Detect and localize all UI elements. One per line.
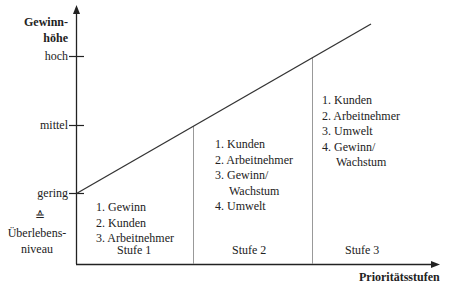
priority-item: 1. Kunden (215, 137, 293, 153)
y-axis-title: Gewinn- höhe (2, 15, 68, 45)
priority-item: 1. Gewinn (96, 200, 174, 216)
tick-label-gering: gering (0, 186, 68, 200)
priority-item: 3. Umwelt (322, 124, 400, 140)
stage-3-label: Stufe 3 (345, 243, 379, 257)
stage-2-label: Stufe 2 (232, 243, 266, 257)
y-axis-title-line1: Gewinn- (2, 15, 68, 29)
priority-item: 2. Arbeitnehmer (322, 109, 400, 125)
baseline-label-line1: Überlebens- (0, 226, 74, 240)
priority-item: 1. Kunden (322, 93, 400, 109)
baseline-label: Überlebens- niveau (0, 226, 74, 256)
x-axis-title: Prioritätsstufen (359, 270, 440, 284)
priority-item: Wachstum (215, 184, 293, 200)
priority-item: 2. Kunden (96, 216, 174, 232)
stage-1-label: Stufe 1 (117, 243, 151, 257)
stage-3-priorities: 1. Kunden 2. Arbeitnehmer 3. Umwelt 4. G… (322, 93, 400, 171)
stage-1-priorities: 1. Gewinn 2. Kunden 3. Arbeitnehmer (96, 200, 174, 247)
priority-item: 2. Arbeitnehmer (215, 153, 293, 169)
tick-label-mittel: mittel (0, 118, 68, 132)
y-axis-title-line2: höhe (2, 31, 68, 45)
equivalence-symbol: ≙ (26, 209, 54, 223)
priority-item: 3. Gewinn/ (215, 168, 293, 184)
stage-2-priorities: 1. Kunden 2. Arbeitnehmer 3. Gewinn/ Wac… (215, 137, 293, 215)
y-axis-arrow-icon (73, 5, 80, 14)
priority-item: 4. Umwelt (215, 199, 293, 215)
priority-item: 4. Gewinn/ (322, 140, 400, 156)
priority-item: Wachstum (322, 155, 400, 171)
baseline-label-line2: niveau (0, 242, 74, 256)
tick-label-hoch: hoch (0, 49, 68, 63)
x-axis-arrow-icon (431, 261, 440, 268)
